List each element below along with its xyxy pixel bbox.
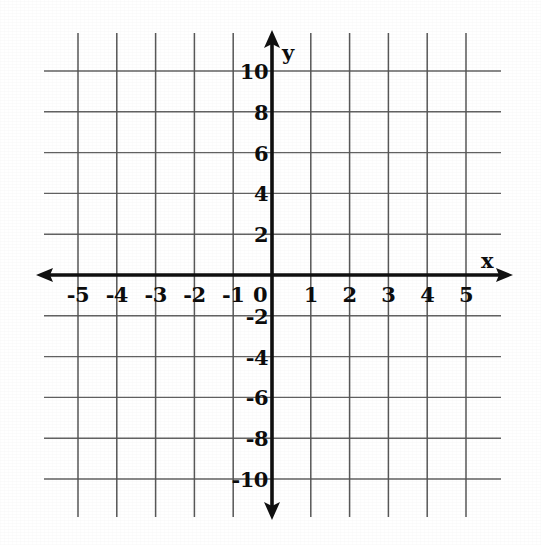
x-tick-label: -1 — [222, 284, 244, 305]
y-tick-label: -6 — [246, 387, 268, 408]
y-tick-label: -4 — [246, 346, 268, 367]
x-axis-label: x — [481, 250, 494, 271]
y-tick-label: 10 — [240, 61, 268, 82]
x-tick-label: 2 — [343, 284, 357, 305]
x-tick-label: 3 — [381, 284, 395, 305]
y-tick-label: 4 — [254, 183, 268, 204]
coordinate-grid-figure: -5-4-3-2-112345108642-2-4-6-8-100 x y — [0, 0, 541, 545]
y-tick-label: -8 — [246, 428, 268, 449]
y-tick-label: -2 — [246, 305, 268, 326]
y-tick-label: 6 — [254, 142, 268, 163]
y-axis-label: y — [282, 42, 294, 63]
x-tick-label: -3 — [144, 284, 166, 305]
y-tick-label: 2 — [254, 224, 268, 245]
y-tick-label: 8 — [254, 101, 268, 122]
x-tick-label: -4 — [106, 284, 128, 305]
y-tick-label: -10 — [232, 469, 268, 490]
origin-label: 0 — [253, 284, 267, 305]
x-tick-label: 5 — [459, 284, 473, 305]
x-tick-label: -2 — [183, 284, 205, 305]
grid-and-axes — [0, 0, 541, 545]
x-tick-label: 4 — [420, 284, 434, 305]
x-tick-label: -5 — [67, 284, 89, 305]
x-tick-label: 1 — [304, 284, 318, 305]
